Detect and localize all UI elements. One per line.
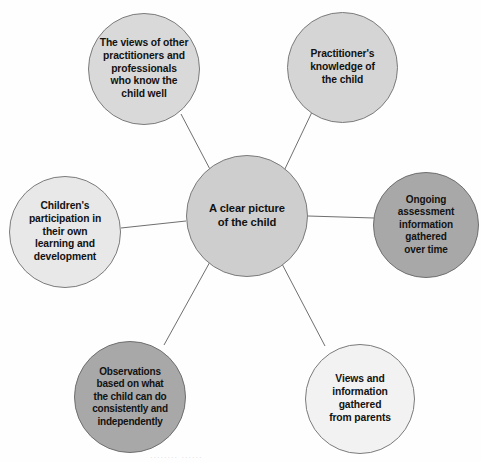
connector-hub-to-other-practitioners (181, 114, 213, 175)
connector-hub-to-observations (164, 260, 211, 345)
node-practitioner-knowledge-label: Practitioner's knowledge of the child (304, 48, 381, 86)
node-hub: A clear picture of the child (186, 155, 308, 277)
scan-artifact-text: ........ ...... (150, 450, 300, 460)
node-children-participation: Children's participation in their own le… (9, 176, 121, 288)
connector-hub-to-views-from-parents (281, 262, 325, 346)
connector-hub-to-children-participation (121, 221, 186, 228)
diagram-canvas: A clear picture of the child The views o… (0, 0, 481, 462)
node-observations: Observations based on what the child can… (74, 341, 186, 453)
node-practitioner-knowledge: Practitioner's knowledge of the child (287, 12, 398, 123)
node-views-from-parents-label: Views and information gathered from pare… (323, 373, 397, 424)
node-ongoing-assessment-label: Ongoing assessment information gathered … (392, 194, 460, 256)
node-other-practitioners: The views of other practitioners and pro… (88, 13, 200, 125)
node-children-participation-label: Children's participation in their own le… (23, 200, 107, 264)
node-ongoing-assessment: Ongoing assessment information gathered … (373, 172, 479, 278)
node-observations-label: Observations based on what the child can… (86, 366, 174, 428)
connector-hub-to-practitioner-knowledge (283, 112, 312, 173)
connector-hub-to-ongoing-assessment (308, 216, 374, 218)
node-hub-label: A clear picture of the child (203, 202, 291, 230)
node-other-practitioners-label: The views of other practitioners and pro… (94, 37, 195, 101)
node-views-from-parents: Views and information gathered from pare… (305, 344, 415, 454)
